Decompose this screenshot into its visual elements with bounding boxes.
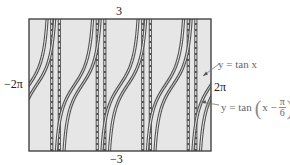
x-min-label: −2π — [4, 78, 23, 90]
x-max-label: 2π — [214, 81, 226, 93]
open-paren: ( — [255, 98, 262, 118]
plot-area — [0, 0, 290, 165]
y-min-label: −3 — [110, 153, 123, 165]
legend-tan-x: y = tan x — [218, 59, 257, 70]
fraction-den: 6 — [280, 108, 285, 118]
legend-shift-x: x − — [262, 102, 276, 113]
legend-shift-prefix: y = tan — [221, 102, 252, 113]
y-max-label: 3 — [116, 5, 122, 17]
close-paren: ) — [287, 98, 290, 118]
legend-fraction: π 6 — [279, 97, 286, 118]
legend-tan-shifted: y = tan ( x − π 6 ) — [221, 97, 290, 118]
